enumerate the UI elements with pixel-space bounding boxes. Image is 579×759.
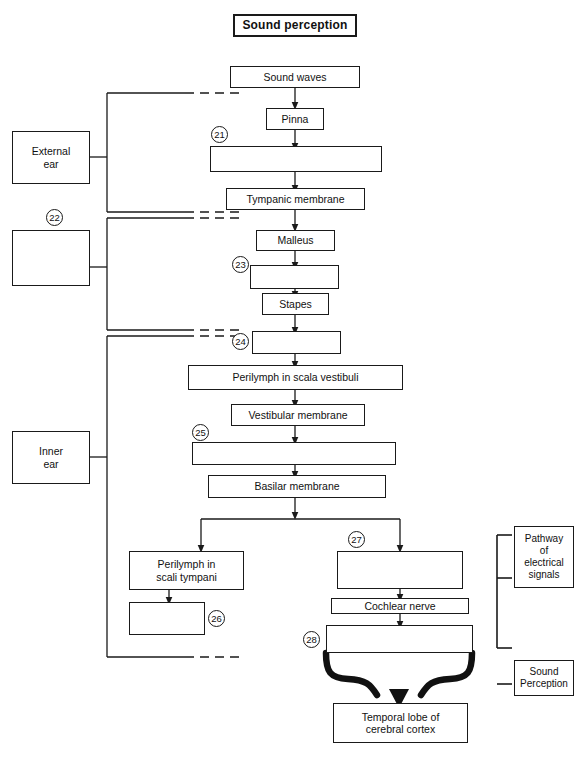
- right-label-line: signals: [528, 569, 559, 581]
- diagram-canvas: Sound perception External ear Inner ear …: [0, 0, 579, 759]
- flow-box-blank-26[interactable]: [129, 602, 205, 635]
- flow-box-line: Perilymph in: [158, 558, 216, 570]
- flow-box-line: cerebral cortex: [366, 723, 435, 735]
- flow-box-pinna: Pinna: [266, 108, 324, 130]
- flow-box-blank-28[interactable]: [326, 625, 473, 653]
- right-label-line: Pathway: [525, 533, 563, 545]
- side-label-line: ear: [43, 158, 58, 170]
- flow-box-perilymph-scala-vestibuli: Perilymph in scala vestibuli: [188, 365, 403, 390]
- flow-box-line: scali tympani: [156, 571, 217, 583]
- flow-box-temporal-lobe: Temporal lobe of cerebral cortex: [333, 703, 468, 743]
- side-label-line: External: [32, 145, 71, 157]
- question-number-26: 26: [208, 610, 225, 627]
- question-number-22: 22: [46, 209, 63, 226]
- flow-box-blank-27[interactable]: [337, 551, 463, 589]
- flow-box-blank-21[interactable]: [210, 146, 382, 172]
- right-label-pathway-of-electrical-signals: Pathway of electrical signals: [514, 526, 574, 588]
- flow-box-line: Temporal lobe of: [362, 711, 440, 723]
- flow-box-blank-23[interactable]: [250, 265, 339, 289]
- question-number-24: 24: [232, 333, 249, 350]
- question-number-28: 28: [303, 631, 320, 648]
- question-number-23: 23: [232, 256, 249, 273]
- right-label-sound-perception: Sound Perception: [514, 660, 574, 696]
- side-label-inner-ear: Inner ear: [12, 431, 90, 484]
- flow-box-blank-24[interactable]: [252, 331, 341, 354]
- side-label-line: ear: [43, 458, 58, 470]
- side-label-blank-22[interactable]: [12, 230, 90, 286]
- right-label-line: electrical: [524, 557, 563, 569]
- flow-box-blank-25[interactable]: [192, 442, 396, 465]
- side-label-line: Inner: [39, 445, 63, 457]
- flow-box-basilar-membrane: Basilar membrane: [208, 475, 386, 498]
- right-label-line: of: [540, 545, 548, 557]
- flow-box-vestibular-membrane: Vestibular membrane: [231, 404, 365, 426]
- question-number-27: 27: [348, 531, 365, 548]
- flow-box-sound-waves: Sound waves: [230, 66, 360, 88]
- right-label-line: Sound: [530, 666, 559, 678]
- side-label-external-ear: External ear: [12, 131, 90, 184]
- flow-box-malleus: Malleus: [256, 230, 335, 251]
- flow-box-stapes: Stapes: [262, 293, 329, 315]
- page-title: Sound perception: [233, 14, 357, 37]
- curly-brace: [326, 653, 472, 695]
- question-number-21: 21: [211, 126, 228, 143]
- right-label-line: Perception: [520, 678, 568, 690]
- flow-box-cochlear-nerve: Cochlear nerve: [331, 598, 469, 614]
- flow-box-tympanic-membrane: Tympanic membrane: [226, 188, 365, 210]
- flow-box-perilymph-scali-tympani: Perilymph in scali tympani: [129, 551, 244, 590]
- question-number-25: 25: [192, 424, 209, 441]
